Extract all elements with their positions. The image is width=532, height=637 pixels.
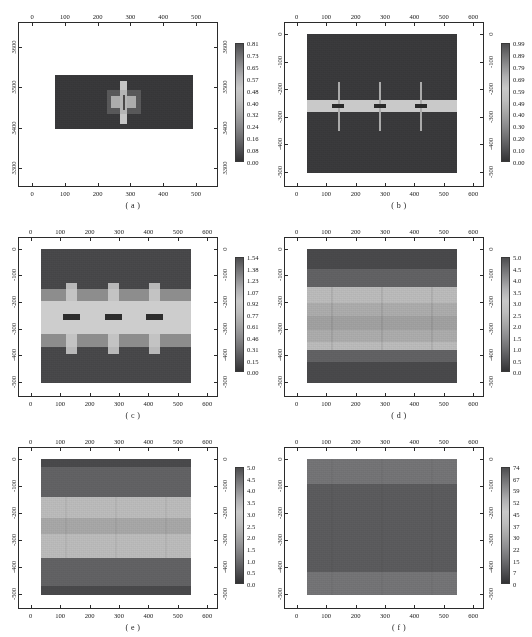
y-ticklabel-left-f-2: -200 xyxy=(276,507,283,519)
y-tick-left-c-1 xyxy=(19,275,22,276)
y-ticklabel-right-b-4: -400 xyxy=(487,138,494,150)
y-tick-left-b-0 xyxy=(285,34,288,35)
y-tick-right-e-5 xyxy=(214,594,217,595)
x-ticklabel-bottom-c-0: 0 xyxy=(29,400,32,407)
colorbar-ticklabel-c-5: 0.77 xyxy=(247,311,259,318)
x-ticklabel-bottom-f-0: 0 xyxy=(295,612,298,619)
colorbar-ticklabel-a-2: 0.65 xyxy=(247,63,259,70)
panel-b-axes-frame: 0010010020020030030040040050050060060000… xyxy=(284,22,484,187)
y-ticklabel-right-d-5: -500 xyxy=(487,376,494,388)
y-ticklabel-right-a-2: 3500 xyxy=(221,81,228,94)
y-ticklabel-right-f-1: -100 xyxy=(487,480,494,492)
panel-f-plot-area xyxy=(307,459,457,595)
colorbar-ticklabel-a-10: 0.00 xyxy=(247,159,259,166)
y-tick-right-e-3 xyxy=(214,540,217,541)
y-ticklabel-right-f-2: -200 xyxy=(487,507,494,519)
colorbar-ticklabel-f-8: 15 xyxy=(513,557,520,564)
y-ticklabel-left-c-5: -500 xyxy=(10,376,17,388)
y-tick-left-a-1 xyxy=(19,128,22,129)
y-tick-right-c-2 xyxy=(214,302,217,303)
y-ticklabel-right-c-0: 0 xyxy=(221,247,228,250)
colorbar-ticklabel-b-0: 0.99 xyxy=(513,40,525,47)
x-tick-top-d-2 xyxy=(356,238,357,241)
x-tick-bottom-a-1 xyxy=(65,183,66,186)
y-tick-left-b-4 xyxy=(285,144,288,145)
x-ticklabel-top-c-1: 100 xyxy=(55,228,65,235)
y-tick-left-c-5 xyxy=(19,382,22,383)
x-ticklabel-top-c-5: 500 xyxy=(173,228,183,235)
x-tick-bottom-e-2 xyxy=(90,605,91,608)
x-tick-bottom-e-5 xyxy=(178,605,179,608)
y-tick-left-e-0 xyxy=(19,459,22,460)
x-tick-bottom-a-4 xyxy=(163,183,164,186)
y-tick-left-b-5 xyxy=(285,172,288,173)
x-ticklabel-bottom-b-4: 400 xyxy=(409,190,419,197)
x-ticklabel-bottom-f-3: 300 xyxy=(380,612,390,619)
y-ticklabel-right-d-4: -400 xyxy=(487,349,494,361)
y-tick-left-f-3 xyxy=(285,540,288,541)
y-tick-left-b-1 xyxy=(285,62,288,63)
x-ticklabel-top-b-1: 100 xyxy=(321,13,331,20)
y-tick-right-c-5 xyxy=(214,382,217,383)
y-tick-right-a-2 xyxy=(214,87,217,88)
y-ticklabel-left-e-3: -300 xyxy=(10,534,17,546)
x-tick-bottom-c-5 xyxy=(178,393,179,396)
colorbar-a xyxy=(235,43,244,162)
y-tick-right-b-4 xyxy=(480,144,483,145)
panel-b-star-3-core xyxy=(415,104,427,108)
colorbar-ticklabel-b-3: 0.69 xyxy=(513,75,525,82)
x-ticklabel-top-a-4: 400 xyxy=(158,13,168,20)
colorbar-ticklabel-a-6: 0.32 xyxy=(247,111,259,118)
x-ticklabel-top-c-0: 0 xyxy=(29,228,32,235)
x-ticklabel-top-d-6: 600 xyxy=(468,228,478,235)
colorbar-ticklabel-c-2: 1.23 xyxy=(247,277,259,284)
colorbar-ticklabel-f-10: 0 xyxy=(513,581,516,588)
x-tick-bottom-f-6 xyxy=(473,605,474,608)
x-ticklabel-bottom-b-1: 100 xyxy=(321,190,331,197)
y-tick-right-d-3 xyxy=(480,329,483,330)
y-tick-right-d-1 xyxy=(480,275,483,276)
colorbar-f xyxy=(501,467,510,584)
panel-b-caption: ( b ) xyxy=(266,201,532,210)
y-ticklabel-right-f-0: 0 xyxy=(487,457,494,460)
colorbar-ticklabel-d-4: 3.0 xyxy=(513,300,521,307)
colorbar-ticklabel-a-1: 0.73 xyxy=(247,51,259,58)
y-tick-left-f-1 xyxy=(285,486,288,487)
panel-a: 0010010020020030030040040050050033003300… xyxy=(0,0,266,215)
colorbar-c xyxy=(235,257,244,372)
colorbar-ticklabel-a-5: 0.40 xyxy=(247,99,259,106)
x-tick-bottom-e-1 xyxy=(60,605,61,608)
y-ticklabel-left-a-3: 3600 xyxy=(10,41,17,54)
x-ticklabel-top-d-3: 300 xyxy=(380,228,390,235)
x-tick-top-b-6 xyxy=(473,23,474,26)
colorbar-ticklabel-a-8: 0.16 xyxy=(247,135,259,142)
x-tick-top-a-2 xyxy=(98,23,99,26)
colorbar-ticklabel-c-3: 1.07 xyxy=(247,288,259,295)
figure-panel-grid: 0010010020020030030040040050050033003300… xyxy=(0,0,532,637)
colorbar-ticklabel-b-2: 0.79 xyxy=(513,63,525,70)
colorbar-ticklabel-a-9: 0.08 xyxy=(247,147,259,154)
panel-a-caption: ( a ) xyxy=(0,201,266,210)
x-ticklabel-top-e-4: 400 xyxy=(143,438,153,445)
panel-e-axes-frame: 0010010020020030030040040050050060060000… xyxy=(18,447,218,609)
y-ticklabel-left-b-1: -100 xyxy=(276,55,283,67)
x-tick-bottom-c-6 xyxy=(207,393,208,396)
colorbar-ticklabel-c-9: 0.15 xyxy=(247,357,259,364)
y-ticklabel-right-a-1: 3400 xyxy=(221,121,228,134)
x-tick-bottom-f-2 xyxy=(356,605,357,608)
colorbar-ticklabel-c-4: 0.92 xyxy=(247,300,259,307)
y-ticklabel-right-e-1: -100 xyxy=(221,480,228,492)
x-ticklabel-top-e-5: 500 xyxy=(173,438,183,445)
y-tick-right-d-5 xyxy=(480,382,483,383)
x-tick-bottom-e-4 xyxy=(148,605,149,608)
x-tick-top-c-6 xyxy=(207,238,208,241)
x-ticklabel-top-c-4: 400 xyxy=(143,228,153,235)
x-ticklabel-bottom-e-6: 600 xyxy=(202,612,212,619)
colorbar-ticklabel-e-3: 3.5 xyxy=(247,499,255,506)
y-tick-left-e-5 xyxy=(19,594,22,595)
y-tick-left-d-4 xyxy=(285,355,288,356)
y-ticklabel-right-a-3: 3600 xyxy=(221,41,228,54)
y-ticklabel-left-b-4: -400 xyxy=(276,138,283,150)
x-ticklabel-top-f-5: 500 xyxy=(439,438,449,445)
colorbar-ticklabel-e-0: 5.0 xyxy=(247,464,255,471)
